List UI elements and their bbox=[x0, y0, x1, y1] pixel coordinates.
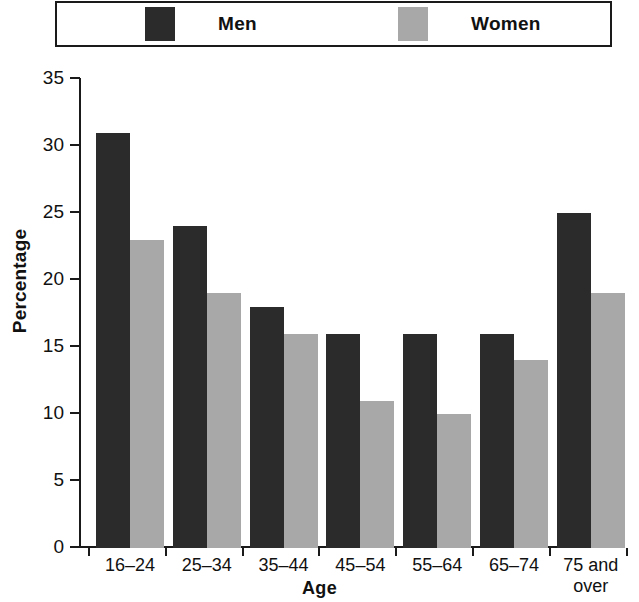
bar-women-1 bbox=[207, 293, 241, 548]
bar-women-0 bbox=[130, 240, 164, 548]
bar-men-6 bbox=[557, 213, 591, 548]
y-axis-tick bbox=[70, 77, 80, 79]
bar-chart: 05101520253035 Percentage 16–2425–3435–4… bbox=[0, 0, 639, 602]
x-axis-category-label: 25–34 bbox=[169, 555, 245, 576]
y-axis-tick bbox=[70, 278, 80, 280]
x-axis-category-label: 16–24 bbox=[92, 555, 168, 576]
bar-men-4 bbox=[403, 334, 437, 548]
bar-men-1 bbox=[173, 226, 207, 548]
bar-men-0 bbox=[96, 133, 130, 548]
y-axis-tick bbox=[70, 412, 80, 414]
bar-men-5 bbox=[480, 334, 514, 548]
y-axis-tick-label: 30 bbox=[24, 134, 64, 156]
y-axis-tick-label: 10 bbox=[24, 402, 64, 424]
y-axis-tick bbox=[70, 345, 80, 347]
x-axis-category-label: 45–54 bbox=[322, 555, 398, 576]
bar-women-4 bbox=[437, 414, 471, 548]
y-axis-tick bbox=[70, 479, 80, 481]
x-axis-title: Age bbox=[0, 578, 639, 599]
x-axis-tick bbox=[88, 548, 90, 556]
bar-women-2 bbox=[284, 334, 318, 548]
x-axis-category-label: 35–44 bbox=[246, 555, 322, 576]
bar-women-6 bbox=[591, 293, 625, 548]
bar-women-3 bbox=[360, 401, 394, 548]
y-axis-tick bbox=[70, 546, 80, 548]
y-axis-tick-label: 25 bbox=[24, 201, 64, 223]
bar-women-5 bbox=[514, 360, 548, 548]
bar-men-2 bbox=[250, 307, 284, 548]
y-axis-tick bbox=[70, 211, 80, 213]
y-axis-tick-label: 35 bbox=[24, 67, 64, 89]
y-axis-tick bbox=[70, 144, 80, 146]
y-axis-title: Percentage bbox=[9, 221, 31, 341]
bar-men-3 bbox=[326, 334, 360, 548]
x-axis-category-label: 55–64 bbox=[399, 555, 475, 576]
y-axis-line bbox=[79, 78, 81, 548]
y-axis-tick-label: 5 bbox=[24, 469, 64, 491]
x-axis-category-label: 65–74 bbox=[476, 555, 552, 576]
y-axis-tick-label: 0 bbox=[24, 536, 64, 558]
